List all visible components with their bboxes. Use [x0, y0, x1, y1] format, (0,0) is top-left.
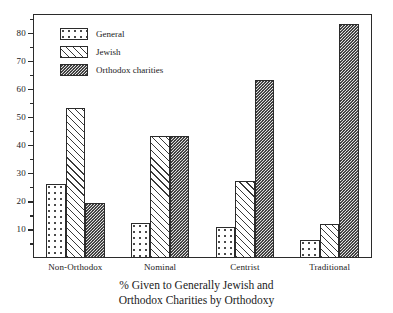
bar-chart: 1020304050607080 Non-OrthodoxNominalCent…: [0, 0, 393, 313]
caption-line-1: % Given to Generally Jewish and: [0, 278, 393, 293]
y-axis-tick-label: 70: [17, 55, 26, 68]
chart-caption: % Given to Generally Jewish and Orthodox…: [0, 278, 393, 308]
x-axis-label: Centrist: [200, 261, 290, 274]
bar: [85, 203, 105, 258]
legend-swatch-general-icon: [60, 28, 88, 40]
y-axis-tick-label: 50: [17, 111, 26, 124]
bar: [320, 224, 340, 258]
bar: [66, 108, 86, 258]
bar: [339, 24, 359, 258]
legend-label-orthodox-charities: Orthodox charities: [96, 63, 163, 78]
legend: General Jewish Orthodox charities: [60, 27, 210, 81]
bar: [131, 223, 151, 258]
y-axis-tick-label: 60: [17, 83, 26, 96]
x-axis: Non-OrthodoxNominalCentristTraditional: [33, 261, 372, 277]
y-axis: 1020304050607080: [0, 0, 33, 313]
bar: [170, 136, 190, 258]
y-axis-tick-label: 20: [17, 195, 26, 208]
bar: [235, 181, 255, 258]
bar: [150, 136, 170, 258]
legend-label-general: General: [96, 27, 124, 42]
caption-line-2: Orthodox Charities by Orthodoxy: [0, 293, 393, 308]
y-axis-tick-label: 30: [17, 167, 26, 180]
y-axis-tick-label: 80: [17, 27, 26, 40]
legend-swatch-jewish-icon: [60, 46, 88, 58]
legend-swatch-orthodox-charities-icon: [60, 64, 88, 76]
x-axis-label: Nominal: [115, 261, 205, 274]
x-axis-label: Non-Orthodox: [30, 261, 120, 274]
bar: [300, 240, 320, 258]
legend-item-general: General: [60, 27, 210, 43]
x-axis-label: Traditional: [285, 261, 375, 274]
bar: [216, 227, 236, 258]
y-axis-tick-label: 40: [17, 139, 26, 152]
legend-item-orthodox-charities: Orthodox charities: [60, 63, 210, 79]
bar: [46, 184, 66, 258]
bar: [255, 80, 275, 258]
y-axis-tick-label: 10: [17, 223, 26, 236]
legend-item-jewish: Jewish: [60, 45, 210, 61]
legend-label-jewish: Jewish: [96, 45, 121, 60]
